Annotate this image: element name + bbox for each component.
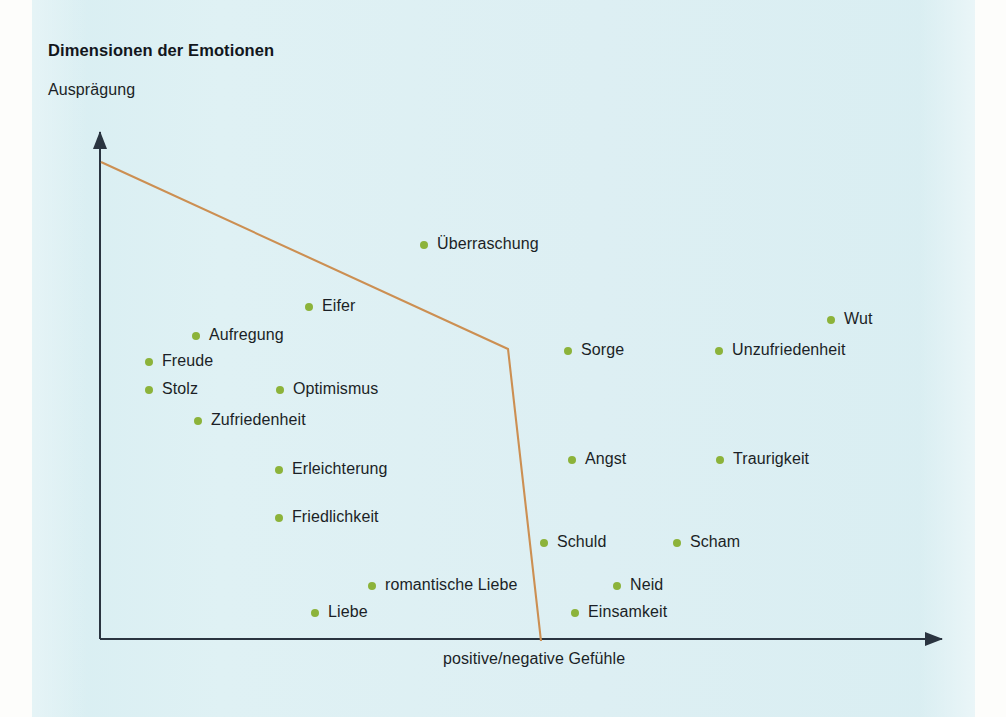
data-point-dot-icon bbox=[311, 609, 319, 617]
data-point: Angst bbox=[568, 451, 626, 469]
data-point-label: Schuld bbox=[557, 534, 607, 552]
data-point-label: Friedlichkeit bbox=[292, 509, 379, 527]
data-point-dot-icon bbox=[827, 316, 835, 324]
data-point: romantische Liebe bbox=[368, 577, 517, 595]
data-point-label: Liebe bbox=[328, 604, 368, 622]
data-point-dot-icon bbox=[275, 514, 283, 522]
data-point-label: Eifer bbox=[322, 298, 355, 316]
data-point-dot-icon bbox=[145, 386, 153, 394]
data-point: Neid bbox=[613, 577, 663, 595]
data-point-label: Sorge bbox=[581, 342, 624, 360]
data-point-label: romantische Liebe bbox=[385, 577, 517, 595]
data-point-dot-icon bbox=[540, 539, 548, 547]
data-point: Eifer bbox=[305, 298, 355, 316]
data-point: Überraschung bbox=[420, 236, 539, 254]
data-point: Optimismus bbox=[276, 381, 378, 399]
data-point: Liebe bbox=[311, 604, 368, 622]
data-point: Einsamkeit bbox=[571, 604, 667, 622]
data-point-label: Freude bbox=[162, 353, 213, 371]
data-point: Sorge bbox=[564, 342, 624, 360]
data-point-dot-icon bbox=[564, 347, 572, 355]
data-point-label: Scham bbox=[690, 534, 740, 552]
data-point-dot-icon bbox=[276, 386, 284, 394]
data-point-dot-icon bbox=[275, 466, 283, 474]
data-point: Wut bbox=[827, 311, 872, 329]
data-point: Freude bbox=[145, 353, 213, 371]
data-point-dot-icon bbox=[145, 358, 153, 366]
data-point-label: Traurigkeit bbox=[733, 451, 809, 469]
data-point-dot-icon bbox=[368, 582, 376, 590]
data-point-dot-icon bbox=[715, 347, 723, 355]
data-point: Stolz bbox=[145, 381, 198, 399]
data-point: Aufregung bbox=[192, 327, 284, 345]
data-point-label: Angst bbox=[585, 451, 626, 469]
data-point: Schuld bbox=[540, 534, 607, 552]
data-point-dot-icon bbox=[568, 456, 576, 464]
data-point-dot-icon bbox=[716, 456, 724, 464]
data-point-dot-icon bbox=[571, 609, 579, 617]
figure-page: Dimensionen der Emotionen Ausprägung pos… bbox=[0, 0, 1006, 717]
data-point-label: Zufriedenheit bbox=[211, 412, 306, 430]
data-point-dot-icon bbox=[305, 303, 313, 311]
data-point: Unzufriedenheit bbox=[715, 342, 846, 360]
data-point: Erleichterung bbox=[275, 461, 388, 479]
data-point-label: Optimismus bbox=[293, 381, 378, 399]
data-point-dot-icon bbox=[613, 582, 621, 590]
data-point: Scham bbox=[673, 534, 740, 552]
data-point-dot-icon bbox=[673, 539, 681, 547]
data-point-label: Aufregung bbox=[209, 327, 284, 345]
data-point-label: Erleichterung bbox=[292, 461, 388, 479]
data-point: Zufriedenheit bbox=[194, 412, 306, 430]
data-point-label: Stolz bbox=[162, 381, 198, 399]
data-point-label: Einsamkeit bbox=[588, 604, 667, 622]
data-point-label: Überraschung bbox=[437, 236, 539, 254]
data-point: Traurigkeit bbox=[716, 451, 809, 469]
data-point-dot-icon bbox=[420, 241, 428, 249]
data-point-dot-icon bbox=[192, 332, 200, 340]
emotion-boundary-line bbox=[101, 162, 541, 641]
data-point-label: Wut bbox=[844, 311, 872, 329]
data-point: Friedlichkeit bbox=[275, 509, 379, 527]
data-point-dot-icon bbox=[194, 417, 202, 425]
data-point-label: Unzufriedenheit bbox=[732, 342, 846, 360]
data-point-label: Neid bbox=[630, 577, 663, 595]
